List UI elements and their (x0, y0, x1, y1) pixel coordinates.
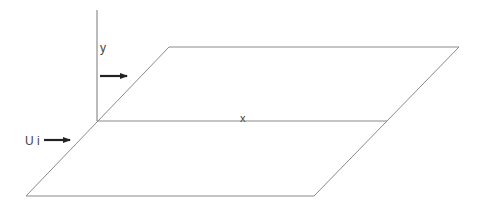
x-axis-label: x (240, 112, 246, 124)
y-axis-label: y (100, 41, 106, 55)
freestream-velocity-label: U i (25, 134, 40, 148)
flat-plate-diagram: y x U i (0, 0, 484, 209)
